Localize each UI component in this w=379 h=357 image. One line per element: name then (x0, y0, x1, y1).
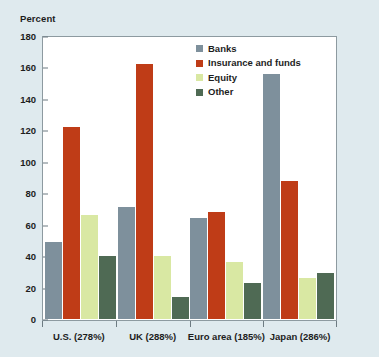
y-tick-label: 60 (25, 221, 43, 231)
legend-swatch-icon (196, 45, 203, 52)
bar (281, 181, 298, 319)
bar (118, 207, 135, 319)
x-axis-category-label: Japan (286%) (270, 331, 331, 342)
bar (299, 278, 316, 319)
y-tick-label: 40 (25, 252, 43, 262)
legend-item: Insurance and funds (196, 57, 301, 70)
legend-swatch-icon (196, 89, 203, 96)
x-tick-mark (116, 321, 117, 327)
legend-label: Insurance and funds (208, 58, 301, 68)
x-axis-category-label: UK (288%) (129, 331, 176, 342)
bar (263, 74, 280, 319)
x-tick-mark (263, 321, 264, 327)
bar (81, 215, 98, 319)
y-tick-label: 80 (25, 189, 43, 199)
y-tick-label: 140 (20, 95, 43, 105)
bar (317, 273, 334, 319)
legend-swatch-icon (196, 60, 203, 67)
bar (244, 283, 261, 319)
y-tick-label: 160 (20, 64, 43, 74)
bar (154, 256, 171, 319)
bar (190, 218, 207, 319)
legend-swatch-icon (196, 74, 203, 81)
bar (63, 127, 80, 319)
bar (136, 64, 153, 319)
legend-label: Equity (208, 73, 237, 83)
legend-item: Equity (196, 71, 301, 84)
chart-figure: Percent 020406080100120140160180 U.S. (2… (0, 0, 379, 357)
x-axis: U.S. (278%)UK (288%)Euro area (185%)Japa… (42, 321, 337, 357)
x-tick-mark (336, 321, 337, 327)
y-tick-label: 180 (20, 32, 43, 42)
bar (226, 262, 243, 319)
legend-label: Banks (208, 44, 237, 54)
bar (45, 242, 62, 319)
chart-legend: BanksInsurance and fundsEquityOther (196, 42, 301, 99)
y-tick-label: 120 (20, 127, 43, 137)
bar (99, 256, 116, 319)
legend-label: Other (208, 87, 233, 97)
legend-item: Banks (196, 42, 301, 55)
bar-group (44, 38, 117, 319)
x-axis-category-label: Euro area (185%) (188, 331, 265, 342)
bar (172, 297, 189, 319)
y-tick-label: 20 (25, 284, 43, 294)
bar (208, 212, 225, 319)
x-tick-mark (190, 321, 191, 327)
x-tick-mark (42, 321, 43, 327)
x-axis-category-label: U.S. (278%) (53, 331, 105, 342)
y-axis-unit-label: Percent (20, 13, 56, 24)
bar-group (117, 38, 190, 319)
legend-item: Other (196, 86, 301, 99)
y-tick-label: 100 (20, 158, 43, 168)
